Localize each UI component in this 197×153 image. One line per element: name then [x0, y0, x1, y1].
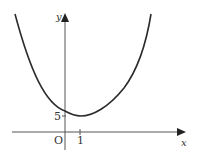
x-tick-label-1: 1: [77, 134, 84, 147]
x-axis-arrow-icon: [177, 128, 186, 136]
parabola-diagram: y x O 5 1: [0, 0, 197, 153]
parabola-curve: [15, 14, 151, 116]
origin-label: O: [54, 134, 63, 147]
x-axis-label: x: [181, 137, 187, 148]
y-tick-label-5: 5: [54, 110, 61, 123]
y-axis-label: y: [55, 11, 62, 22]
y-axis-arrow-icon: [61, 13, 69, 22]
